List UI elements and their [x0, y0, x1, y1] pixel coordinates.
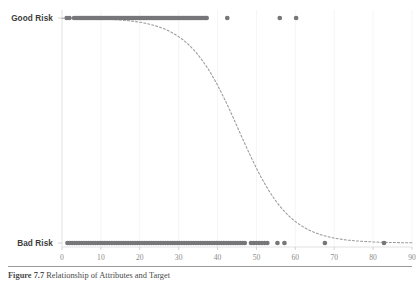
- data-point: [282, 241, 287, 246]
- fit-curve-path: [62, 18, 412, 243]
- data-point: [265, 241, 270, 246]
- logistic-fit-curve: [62, 18, 412, 243]
- data-points-bad-risk: [65, 241, 386, 246]
- data-point: [323, 241, 328, 246]
- data-point: [294, 16, 299, 21]
- x-tick-label: 60: [292, 253, 300, 262]
- caption-label: Figure 7.7: [8, 271, 44, 280]
- caption-divider: [8, 266, 412, 267]
- x-tick-label: 90: [408, 253, 416, 262]
- x-tick-label: 40: [214, 253, 222, 262]
- x-tick-label: 20: [136, 253, 144, 262]
- x-tick-label: 10: [97, 253, 105, 262]
- risk-scatter-chart: Good RiskBad Risk 0102030405060708090: [0, 0, 420, 262]
- axis-lines: [62, 10, 412, 247]
- data-point: [277, 16, 282, 21]
- data-point: [382, 241, 387, 246]
- data-point: [275, 241, 280, 246]
- axis-tick-marks: [58, 18, 412, 250]
- y-category-label: Bad Risk: [17, 239, 53, 248]
- figure-caption: Figure 7.7 Relationship of Attributes an…: [8, 271, 412, 281]
- x-tick-label: 0: [60, 253, 64, 262]
- data-point: [225, 16, 230, 21]
- data-point: [204, 16, 209, 21]
- y-category-label: Good Risk: [11, 14, 53, 23]
- x-axis-tick-labels: 0102030405060708090: [60, 253, 416, 262]
- data-point: [67, 16, 72, 21]
- y-axis-category-labels: Good RiskBad Risk: [11, 14, 53, 248]
- x-tick-label: 80: [369, 253, 377, 262]
- figure-container: Good RiskBad Risk 0102030405060708090 Fi…: [0, 0, 420, 281]
- caption-text: Relationship of Attributes and Target: [46, 271, 170, 280]
- x-tick-label: 70: [330, 253, 338, 262]
- plot-area: Good RiskBad Risk 0102030405060708090: [0, 0, 420, 262]
- data-point: [242, 241, 247, 246]
- x-tick-label: 50: [253, 253, 261, 262]
- x-tick-label: 30: [175, 253, 183, 262]
- grid-lines: [101, 10, 412, 247]
- data-points-good-risk: [64, 16, 298, 21]
